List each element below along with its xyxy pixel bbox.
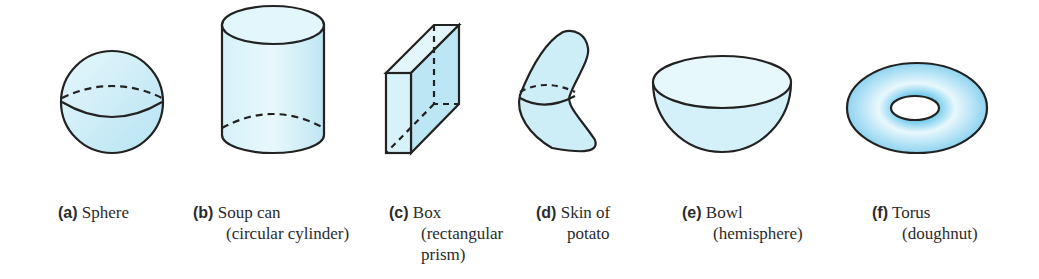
caption-e: (e) Bowl (hemisphere) [682, 202, 803, 244]
torus-icon [847, 63, 987, 153]
caption-f: (f) Torus (doughnut) [872, 202, 978, 244]
caption-a: (a) Sphere [58, 202, 129, 223]
potato-skin-icon [519, 31, 596, 151]
shapes-illustration [0, 0, 1039, 190]
bowl-hemisphere-icon [653, 56, 791, 152]
caption-c: (c) Box (rectangular prism) [389, 202, 503, 265]
sphere-icon [61, 51, 163, 153]
cylinder-icon [222, 6, 324, 153]
caption-b: (b) Soup can (circular cylinder) [193, 202, 349, 244]
box-prism-icon [386, 25, 459, 153]
caption-d: (d) Skin of potato [536, 202, 610, 244]
